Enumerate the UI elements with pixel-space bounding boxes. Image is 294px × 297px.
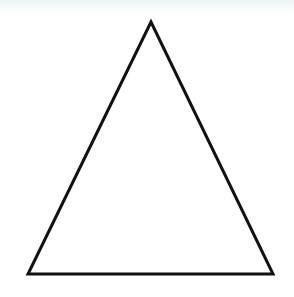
triangle-shape [28,22,273,274]
triangle-figure [0,0,294,297]
diagram-canvas [0,0,294,297]
